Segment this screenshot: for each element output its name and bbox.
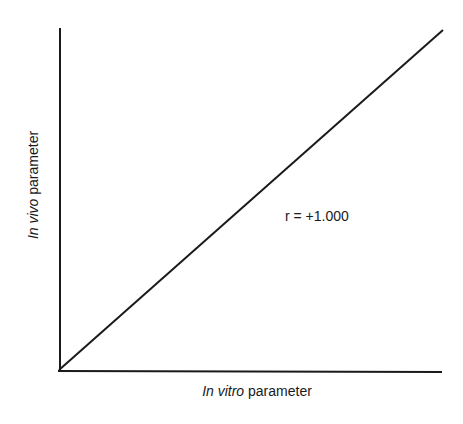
correlation-annotation: r = +1.000 (285, 208, 349, 224)
x-axis-label: In vitro parameter (202, 383, 312, 399)
correlation-line (59, 30, 443, 370)
chart-canvas: r = +1.000 In vitro parameter In vivo pa… (0, 0, 463, 424)
x-axis (58, 371, 442, 372)
y-axis-label: In vivo parameter (25, 131, 41, 240)
